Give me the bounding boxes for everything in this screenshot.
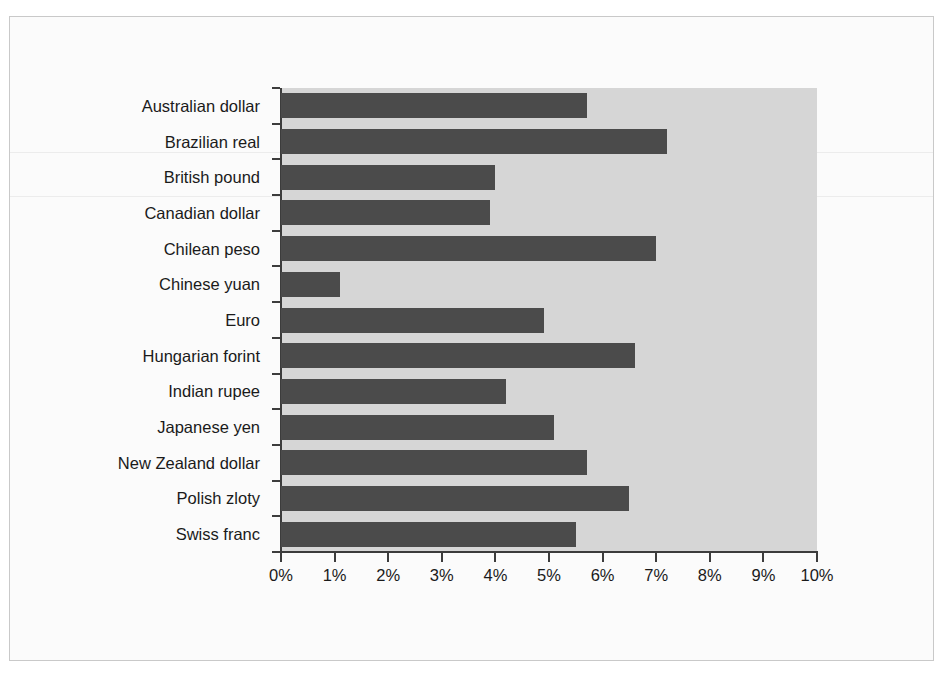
y-tick-mark <box>272 230 280 232</box>
bars-container <box>281 88 817 552</box>
x-tick-mark <box>334 553 336 562</box>
x-tick-mark <box>441 553 443 562</box>
x-tick-mark <box>387 553 389 562</box>
x-axis-tick-label: 9% <box>751 565 775 585</box>
bar <box>281 450 587 475</box>
x-tick-mark <box>602 553 604 562</box>
x-tick-mark <box>548 553 550 562</box>
x-axis-tick-label: 3% <box>430 565 454 585</box>
y-tick-mark <box>272 158 280 160</box>
x-tick-mark <box>762 553 764 562</box>
x-axis-tick-label: 2% <box>376 565 400 585</box>
x-tick-mark <box>816 553 818 562</box>
y-axis-tick-label: Chinese yuan <box>159 274 272 294</box>
bar <box>281 93 587 118</box>
x-axis-tick-label: 5% <box>537 565 561 585</box>
x-tick-mark <box>709 553 711 562</box>
x-tick-mark <box>280 553 282 562</box>
bar <box>281 522 576 547</box>
x-tick-mark <box>494 553 496 562</box>
y-axis-tick-label: Canadian dollar <box>144 203 272 223</box>
y-tick-mark <box>272 87 280 89</box>
x-tick-mark <box>655 553 657 562</box>
bar <box>281 415 554 440</box>
x-axis-tick-label: 10% <box>800 565 833 585</box>
y-tick-mark <box>272 551 280 553</box>
bar <box>281 343 635 368</box>
bar <box>281 308 544 333</box>
bar <box>281 236 656 261</box>
bar <box>281 165 495 190</box>
y-axis-tick-label: New Zealand dollar <box>118 453 272 473</box>
y-tick-mark <box>272 408 280 410</box>
y-tick-mark <box>272 194 280 196</box>
x-axis-tick-label: 0% <box>269 565 293 585</box>
x-axis-tick-label: 8% <box>698 565 722 585</box>
y-tick-mark <box>272 515 280 517</box>
y-axis-tick-label: Brazilian real <box>165 132 272 152</box>
y-axis-tick-label: Swiss franc <box>176 524 272 544</box>
y-axis-tick-label: Chilean peso <box>164 239 272 259</box>
chart-title-fragment <box>0 0 943 12</box>
y-axis-tick-label: Euro <box>225 310 272 330</box>
y-tick-mark <box>272 373 280 375</box>
y-tick-mark <box>272 123 280 125</box>
y-tick-mark <box>272 480 280 482</box>
y-axis-tick-label: Polish zloty <box>177 488 272 508</box>
bar <box>281 129 667 154</box>
x-axis-tick-label: 1% <box>323 565 347 585</box>
bar <box>281 379 506 404</box>
bar <box>281 200 490 225</box>
y-axis-tick-label: Hungarian forint <box>143 346 272 366</box>
x-axis-tick-label: 6% <box>591 565 615 585</box>
y-tick-mark <box>272 444 280 446</box>
y-axis-tick-label: British pound <box>164 167 272 187</box>
y-axis-tick-label: Australian dollar <box>142 96 272 116</box>
y-tick-mark <box>272 265 280 267</box>
x-axis-tick-label: 7% <box>644 565 668 585</box>
x-axis-tick-label: 4% <box>483 565 507 585</box>
y-axis-tick-label: Japanese yen <box>157 417 272 437</box>
y-axis-tick-label: Indian rupee <box>168 381 272 401</box>
y-tick-mark <box>272 337 280 339</box>
y-tick-mark <box>272 301 280 303</box>
y-axis-labels-container: Australian dollarBrazilian realBritish p… <box>0 88 272 552</box>
bar-chart-figure: Australian dollarBrazilian realBritish p… <box>0 0 943 676</box>
bar <box>281 272 340 297</box>
bar <box>281 486 629 511</box>
